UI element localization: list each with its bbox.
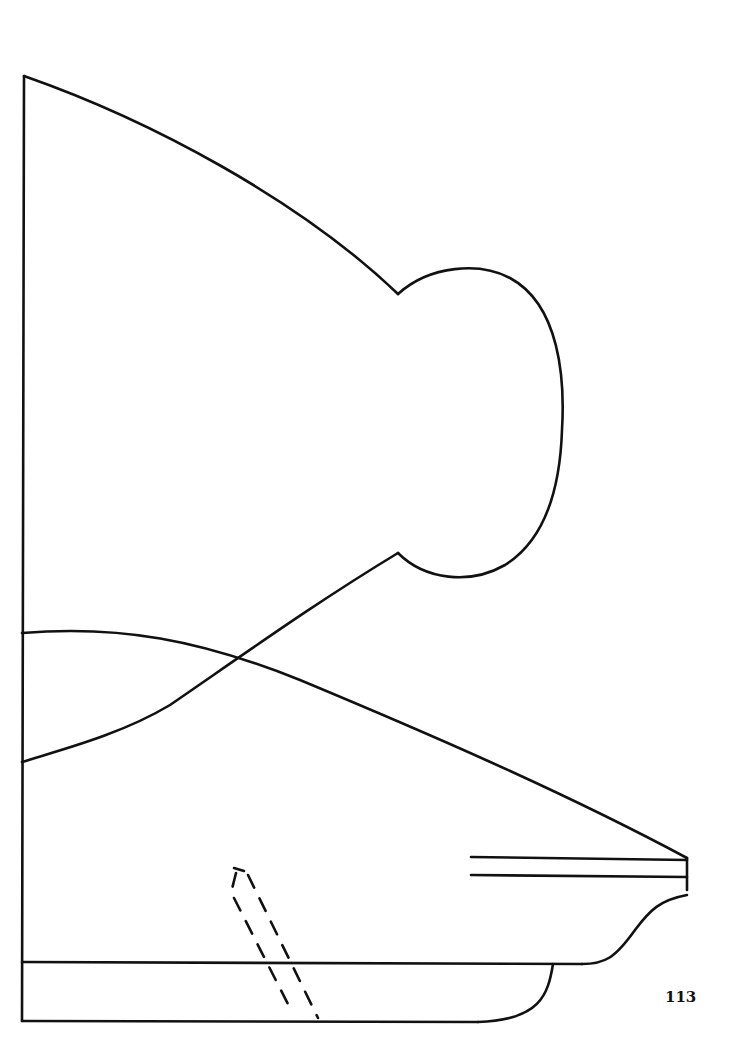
left-edge-line (22, 76, 24, 1021)
lower-right-curve (582, 895, 687, 964)
pattern-sheet (0, 0, 745, 1040)
top-curve-line (24, 76, 398, 294)
base-band-curve (478, 964, 553, 1022)
dashed-placement-guide (231, 868, 318, 1018)
slot-line-top (471, 857, 687, 860)
base-band-top-line (22, 962, 582, 964)
slot-line-bottom (471, 875, 687, 877)
page-number: 113 (665, 988, 696, 1006)
bottom-edge-line (22, 1021, 478, 1022)
rounded-tab-outline (398, 268, 563, 577)
lower-diagonal-curve (22, 553, 398, 762)
sweeping-curve-line (22, 631, 687, 858)
